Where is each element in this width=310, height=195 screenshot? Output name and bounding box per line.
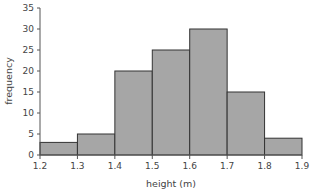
y-axis-ticks: 05101520253035 — [23, 3, 40, 160]
x-axis-label: height (m) — [146, 178, 196, 189]
histogram-bar — [152, 50, 189, 155]
y-axis-label: frequency — [3, 57, 14, 105]
histogram-bar — [190, 29, 227, 155]
histogram-bar — [227, 92, 264, 155]
y-tick-label: 0 — [28, 150, 34, 160]
y-tick-label: 20 — [23, 66, 35, 76]
histogram-bars — [40, 29, 302, 155]
y-tick-label: 5 — [28, 129, 34, 139]
y-tick-label: 30 — [23, 24, 35, 34]
y-tick-label: 15 — [23, 87, 34, 97]
y-tick-label: 25 — [23, 45, 34, 55]
histogram-bar — [265, 138, 302, 155]
x-axis-ticks: 1.21.31.41.51.61.71.81.9 — [33, 155, 310, 171]
x-tick-label: 1.5 — [145, 161, 159, 171]
y-tick-label: 10 — [23, 108, 35, 118]
histogram-bar — [77, 134, 114, 155]
x-tick-label: 1.2 — [33, 161, 47, 171]
histogram-bar — [40, 142, 77, 155]
x-tick-label: 1.4 — [108, 161, 123, 171]
x-tick-label: 1.3 — [70, 161, 84, 171]
x-tick-label: 1.7 — [220, 161, 234, 171]
histogram-chart: 05101520253035 1.21.31.41.51.61.71.81.9 … — [0, 0, 310, 195]
y-tick-label: 35 — [23, 3, 34, 13]
histogram-bar — [115, 71, 152, 155]
x-tick-label: 1.8 — [257, 161, 272, 171]
x-tick-label: 1.9 — [295, 161, 310, 171]
x-tick-label: 1.6 — [183, 161, 198, 171]
